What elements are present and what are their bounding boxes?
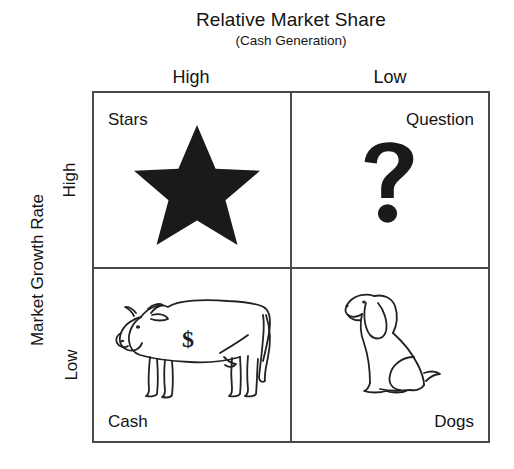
x-axis-subtitle: (Cash Generation)	[92, 32, 490, 49]
matrix-grid: Stars Question Cash	[92, 91, 490, 443]
x-axis-title-block: Relative Market Share (Cash Generation)	[92, 8, 490, 49]
bcg-matrix-diagram: Relative Market Share (Cash Generation) …	[0, 0, 514, 469]
dog-icon	[336, 279, 448, 403]
quadrant-label-question: Question	[406, 110, 474, 130]
x-axis-title: Relative Market Share	[92, 8, 490, 31]
row-header-low: Low	[62, 315, 82, 415]
cow-dollar-sign: $	[182, 326, 194, 352]
y-axis-title: Market Growth Rate	[28, 170, 48, 370]
column-header-low: Low	[290, 66, 490, 88]
row-header-high: High	[60, 130, 80, 230]
question-mark-icon	[364, 141, 416, 223]
star-icon	[134, 125, 260, 245]
quadrant-label-dogs: Dogs	[434, 412, 474, 432]
column-header-high: High	[92, 66, 290, 88]
quadrant-cash[interactable]: Cash	[94, 269, 290, 443]
quadrant-stars[interactable]: Stars	[94, 93, 290, 267]
quadrant-question[interactable]: Question	[292, 93, 488, 267]
quadrant-dogs[interactable]: Dogs	[292, 269, 488, 443]
cash-cow-icon: $	[108, 291, 280, 403]
quadrant-label-cash: Cash	[108, 412, 148, 432]
